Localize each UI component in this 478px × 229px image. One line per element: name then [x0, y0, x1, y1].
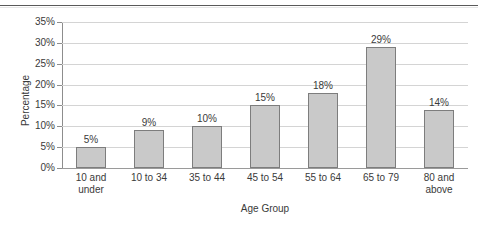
bar-value-label: 5%: [84, 134, 98, 145]
y-axis-tick-label: 35%: [5, 17, 55, 27]
y-axis-tick-label: 25%: [5, 59, 55, 69]
bar[interactable]: [366, 47, 396, 168]
bar[interactable]: [76, 147, 106, 168]
x-axis-tick-label-line: under: [62, 184, 120, 196]
x-axis-tick-label: 10 to 34: [120, 172, 178, 184]
x-axis-tick-label-line: 10 and: [62, 172, 120, 184]
bar[interactable]: [134, 130, 164, 168]
x-axis-tick-label: 55 to 64: [294, 172, 352, 184]
bar-value-label: 18%: [313, 80, 333, 91]
x-axis-title: Age Group: [62, 203, 468, 214]
x-axis-tick-label: 45 to 54: [236, 172, 294, 184]
plot-area: 5%9%10%15%18%29%14%: [62, 22, 468, 168]
y-axis-tick-labels: 0%5%10%15%20%25%30%35%: [0, 0, 55, 229]
bar-slot: 9%: [120, 22, 178, 168]
x-axis-tick-label-line: above: [410, 184, 468, 196]
bar-value-label: 9%: [142, 117, 156, 128]
bar-value-label: 14%: [429, 97, 449, 108]
bar[interactable]: [250, 105, 280, 168]
x-axis-tick-label-line: 55 to 64: [294, 172, 352, 184]
bar-slot: 15%: [236, 22, 294, 168]
bar-value-label: 15%: [255, 92, 275, 103]
y-axis-tick-label: 5%: [5, 142, 55, 152]
x-axis-tick-label: 65 to 79: [352, 172, 410, 184]
bar[interactable]: [308, 93, 338, 168]
x-axis-tick-label: 10 andunder: [62, 172, 120, 196]
bar-value-label: 10%: [197, 113, 217, 124]
bar-slot: 14%: [410, 22, 468, 168]
x-axis-tick-labels: 10 andunder10 to 3435 to 4445 to 5455 to…: [62, 172, 468, 202]
y-axis-tick: [57, 85, 62, 86]
y-axis-tick-label: 20%: [5, 80, 55, 90]
x-axis-tick-label-line: 80 and: [410, 172, 468, 184]
bar-slot: 10%: [178, 22, 236, 168]
x-axis-baseline: [62, 168, 468, 169]
x-axis-tick-label: 80 andabove: [410, 172, 468, 196]
bar[interactable]: [424, 110, 454, 168]
y-axis-tick: [57, 105, 62, 106]
x-axis-tick-label-line: 65 to 79: [352, 172, 410, 184]
y-axis-tick: [57, 126, 62, 127]
y-axis-tick: [57, 64, 62, 65]
y-axis-tick: [57, 147, 62, 148]
y-axis-tick: [57, 22, 62, 23]
x-axis-tick-label: 35 to 44: [178, 172, 236, 184]
x-axis-tick-label-line: 10 to 34: [120, 172, 178, 184]
bar-chart: Percentage 0%5%10%15%20%25%30%35% 5%9%10…: [0, 0, 478, 229]
y-axis-tick-label: 10%: [5, 121, 55, 131]
bar-slot: 29%: [352, 22, 410, 168]
y-axis-tick-label: 15%: [5, 100, 55, 110]
bar-slot: 18%: [294, 22, 352, 168]
x-axis-tick-label-line: 45 to 54: [236, 172, 294, 184]
y-axis-tick: [57, 43, 62, 44]
bar-value-label: 29%: [371, 34, 391, 45]
x-axis-tick-label-line: 35 to 44: [178, 172, 236, 184]
bar[interactable]: [192, 126, 222, 168]
bar-slot: 5%: [62, 22, 120, 168]
y-axis-tick-label: 0%: [5, 163, 55, 173]
y-axis-tick: [57, 168, 62, 169]
y-axis-tick-label: 30%: [5, 38, 55, 48]
